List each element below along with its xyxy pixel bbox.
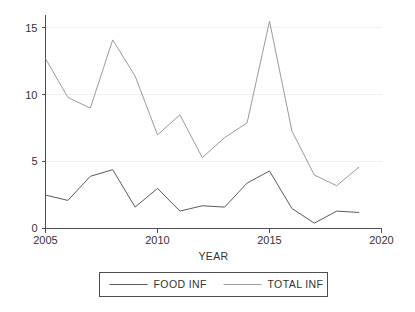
y-tick-label: 0 [31, 222, 37, 234]
x-axis-tick-labels: 2005201020152020 [33, 234, 393, 246]
y-tick-label: 10 [25, 89, 37, 101]
legend-item-label: TOTAL INF [268, 278, 324, 290]
y-tick-label: 15 [25, 22, 37, 34]
series-line [46, 21, 360, 186]
legend-item-label: FOOD INF [154, 278, 207, 290]
gridlines [46, 28, 382, 162]
x-axis-title: YEAR [198, 250, 228, 262]
x-tick-label: 2010 [145, 234, 169, 246]
y-tick-label: 5 [31, 155, 37, 167]
chart-container: 051015 2005201020152020 YEAR FOOD INFTOT… [0, 0, 415, 312]
x-tick-label: 2005 [33, 234, 57, 246]
x-tick-label: 2015 [257, 234, 281, 246]
line-chart: 051015 2005201020152020 YEAR FOOD INFTOT… [0, 0, 415, 312]
chart-legend: FOOD INFTOTAL INF [100, 273, 328, 297]
y-axis-tick-labels: 051015 [25, 22, 37, 235]
series-line [46, 170, 360, 224]
axes [46, 15, 382, 229]
data-series-group [46, 21, 360, 223]
tick-marks [42, 28, 382, 233]
x-tick-label: 2020 [369, 234, 393, 246]
